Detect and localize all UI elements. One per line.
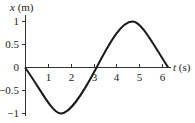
x-tick-label-2: 2 xyxy=(69,71,75,83)
x-axis-title: t (s) xyxy=(173,61,191,74)
x-tick-label-4: 4 xyxy=(114,71,120,83)
x-tick-label-3: 3 xyxy=(92,71,98,83)
y-tick-label-neg0.5: −0.5 xyxy=(0,84,19,96)
y-tick-label-1: 1 xyxy=(14,15,20,27)
x-tick-label-1: 1 xyxy=(46,71,52,83)
chart: x (m) 1 0.5 0 −0.5 −1 1 2 3 4 5 6 t (s) xyxy=(0,0,195,123)
y-tick-label-0: 0 xyxy=(14,61,20,73)
y-tick-label-neg1: −1 xyxy=(7,107,19,119)
y-axis-title: x (m) xyxy=(9,1,34,14)
x-tick-label-6: 6 xyxy=(160,71,166,83)
x-tick-label-5: 5 xyxy=(137,71,143,83)
y-tick-label-0.5: 0.5 xyxy=(5,38,19,50)
